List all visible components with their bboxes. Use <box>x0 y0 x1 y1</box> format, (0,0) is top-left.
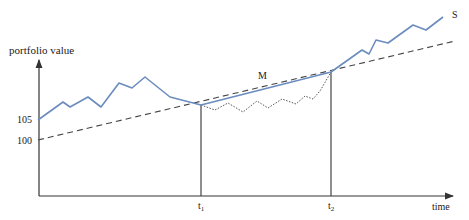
x-axis-label: time <box>432 202 450 212</box>
label-m: M <box>258 71 267 81</box>
portfolio-insurance-diagram: portfolio value 105 100 M S t1 t2 time <box>0 0 469 220</box>
x-tick-t2-sub: 2 <box>331 205 335 213</box>
y-tick-100: 100 <box>17 136 32 146</box>
label-s: S <box>452 10 458 20</box>
diagram-canvas <box>0 0 469 220</box>
x-tick-t1-sub: 1 <box>201 205 205 213</box>
portfolio-line <box>38 17 443 120</box>
x-tick-t2: t2 <box>328 201 334 213</box>
floor-dashed-line <box>38 41 455 140</box>
x-tick-t1: t1 <box>198 201 204 213</box>
y-axis-label: portfolio value <box>9 45 74 56</box>
y-tick-105: 105 <box>17 115 32 125</box>
